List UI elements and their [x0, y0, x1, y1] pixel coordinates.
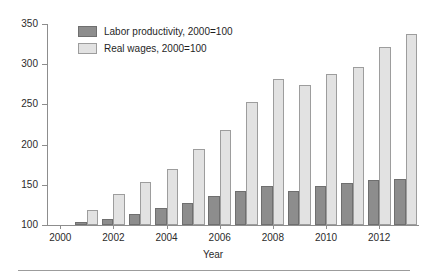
x-tick-label: 2006 — [209, 231, 231, 244]
bar — [167, 169, 178, 225]
y-tick: 350 — [0, 24, 47, 25]
bar — [394, 179, 405, 225]
bar — [129, 214, 140, 225]
y-tick: 150 — [0, 185, 47, 186]
bar — [220, 130, 231, 225]
bar — [102, 219, 113, 225]
y-tick-mark — [42, 225, 47, 226]
y-tick-label: 300 — [21, 57, 38, 70]
x-tick-mark — [167, 225, 168, 229]
legend-item-real-wages: Real wages, 2000=100 — [78, 41, 233, 56]
chart-figure: 100150200250300350 200020022004200620082… — [0, 0, 426, 279]
y-tick-label: 350 — [21, 17, 38, 30]
chart-legend: Labor productivity, 2000=100 Real wages,… — [78, 24, 233, 58]
bar — [235, 191, 246, 225]
legend-swatch-real-wages — [78, 43, 97, 54]
y-tick-label: 200 — [21, 138, 38, 151]
x-axis-title: Year — [0, 248, 426, 261]
x-tick-label: 2002 — [102, 231, 124, 244]
bar — [193, 149, 204, 225]
bar — [140, 182, 151, 225]
y-tick-label: 150 — [21, 178, 38, 191]
y-tick: 250 — [0, 104, 47, 105]
bar — [288, 191, 299, 225]
bar — [246, 102, 257, 225]
x-tick-mark — [326, 225, 327, 229]
legend-item-labor-productivity: Labor productivity, 2000=100 — [78, 24, 233, 39]
y-tick-label: 250 — [21, 97, 38, 110]
y-tick-label: 100 — [21, 218, 38, 231]
legend-label-real-wages: Real wages, 2000=100 — [104, 42, 207, 55]
bar — [155, 208, 166, 225]
footer-divider — [18, 270, 410, 271]
bar — [113, 194, 124, 225]
x-axis-line — [47, 225, 419, 226]
x-tick-label: 2000 — [49, 231, 71, 244]
bar — [341, 183, 352, 225]
x-tick-mark — [220, 225, 221, 229]
x-tick-label: 2012 — [368, 231, 390, 244]
x-tick-mark — [113, 225, 114, 229]
bar — [208, 196, 219, 225]
y-tick: 200 — [0, 145, 47, 146]
bar — [326, 74, 337, 225]
bar — [87, 210, 98, 225]
bar — [353, 67, 364, 225]
x-tick-label: 2010 — [315, 231, 337, 244]
bar — [299, 85, 310, 225]
bar — [406, 34, 417, 225]
legend-label-labor-productivity: Labor productivity, 2000=100 — [104, 25, 233, 38]
x-tick-mark — [273, 225, 274, 229]
bar — [75, 222, 86, 225]
bar — [315, 186, 326, 225]
x-tick-mark — [379, 225, 380, 229]
y-tick: 300 — [0, 64, 47, 65]
x-tick-label: 2008 — [262, 231, 284, 244]
legend-swatch-labor-productivity — [78, 26, 97, 37]
bar — [379, 47, 390, 225]
bar — [368, 180, 379, 225]
bar — [273, 79, 284, 225]
y-tick: 100 — [0, 225, 47, 226]
x-tick-label: 2004 — [155, 231, 177, 244]
x-tick-mark — [60, 225, 61, 229]
bar — [182, 203, 193, 225]
bar — [261, 186, 272, 225]
